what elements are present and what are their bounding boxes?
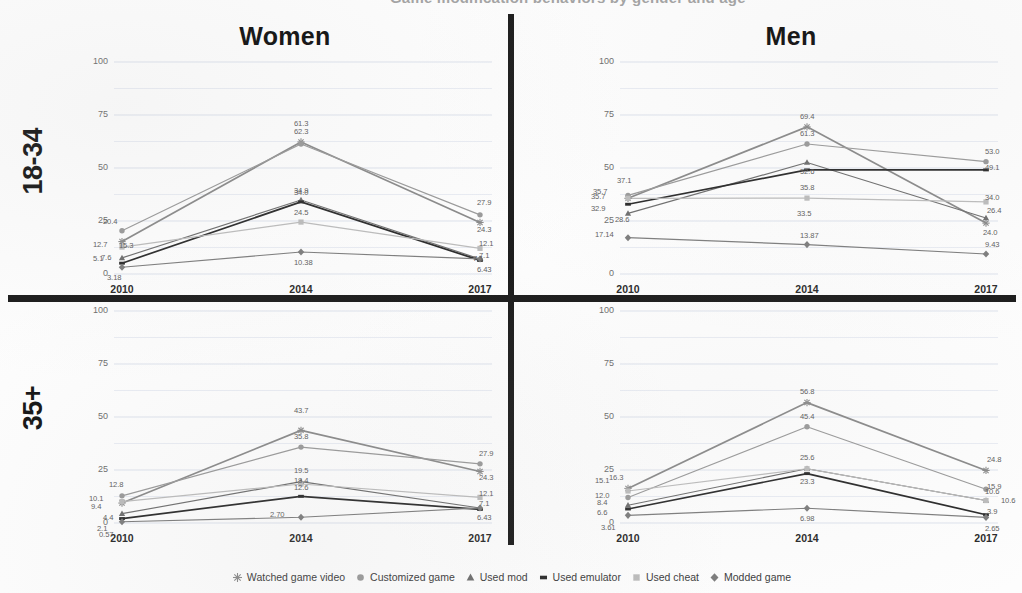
data-point-label: 5.1 — [93, 254, 103, 263]
data-point-label: 53.0 — [985, 147, 999, 156]
legend-item-label: Modded game — [724, 571, 791, 583]
y-axis-tick-label: 75 — [82, 358, 108, 368]
plot-area-men-35-plus — [566, 305, 1016, 545]
data-point-label: 13.87 — [800, 231, 819, 240]
x-axis-tick-label: 2017 — [455, 283, 505, 295]
data-point-label: 23.3 — [800, 477, 814, 486]
row-label-18-34: 18-34 — [18, 128, 49, 195]
data-point-label: 15.3 — [119, 241, 133, 250]
legend-item[interactable]: Watched game video — [231, 571, 345, 583]
x-axis-tick-label: 2010 — [97, 283, 147, 295]
plot-area-women-35-plus — [60, 305, 510, 545]
x-axis-tick-label: 2014 — [276, 283, 326, 295]
x-axis-tick-label: 2014 — [782, 532, 832, 544]
data-point-label: 28.6 — [615, 215, 629, 224]
top-banner: Game modification behaviors by gender an… — [390, 0, 910, 13]
plot-area-men-18-34 — [566, 22, 1016, 294]
y-axis-tick-label: 100 — [588, 305, 614, 315]
square-marker-icon — [630, 572, 643, 583]
data-point-label: 62.3 — [294, 127, 308, 136]
data-point-label: 2.70 — [270, 510, 284, 519]
data-point-label: 6.43 — [477, 513, 491, 522]
y-axis-tick-label: 100 — [82, 56, 108, 66]
data-point-label: 33.5 — [797, 209, 811, 218]
data-point-label: 2.65 — [985, 524, 999, 533]
data-point-label: 32.9 — [591, 204, 605, 213]
data-point-label: 24.8 — [987, 455, 1001, 464]
y-axis-tick-label: 50 — [588, 411, 614, 421]
data-point-label: 8.4 — [597, 498, 607, 507]
data-point-label: 27.9 — [479, 449, 493, 458]
chart-page: Game modification behaviors by gender an… — [0, 0, 1022, 593]
data-point-label: 24.0 — [983, 228, 997, 237]
legend-item[interactable]: Customized game — [354, 571, 455, 583]
data-point-label: 3.61 — [601, 523, 615, 532]
data-point-label: 7.1 — [479, 499, 489, 508]
data-point-label: 35.7 — [591, 192, 605, 201]
y-axis-tick-label: 0 — [588, 268, 614, 278]
panel-men-18-34: Men 100755025020102014201735.769.424.037… — [566, 22, 1016, 294]
x-axis-tick-label: 2010 — [603, 283, 653, 295]
data-point-label: 26.4 — [987, 206, 1001, 215]
data-point-label: 10.38 — [294, 258, 313, 267]
y-axis-tick-label: 75 — [588, 109, 614, 119]
x-axis-tick-label: 2014 — [782, 283, 832, 295]
data-point-label: 45.4 — [800, 412, 814, 421]
data-point-label: 6.98 — [800, 514, 814, 523]
x-axis-tick-label: 2017 — [455, 532, 505, 544]
data-point-label: 24.3 — [479, 473, 493, 482]
data-point-label: 6.6 — [597, 508, 607, 517]
legend-item-label: Watched game video — [247, 571, 345, 583]
data-point-label: 34.0 — [294, 188, 308, 197]
y-axis-tick-label: 100 — [588, 56, 614, 66]
top-banner-text: Game modification behaviors by gender an… — [390, 0, 910, 4]
vertical-divider — [508, 14, 514, 545]
panel-men-35-plus: 100755025020102014201716.356.824.812.045… — [566, 305, 1016, 545]
chart-legend: Watched game videoCustomized gameUsed mo… — [0, 571, 1022, 583]
data-point-label: 24.5 — [294, 208, 308, 217]
panel-women-18-34: Women 100755025020102014201715.362.324.3… — [60, 22, 510, 294]
plot-area-women-18-34 — [60, 22, 510, 294]
data-point-label: 3.9 — [987, 507, 997, 516]
data-point-label: 7.1 — [473, 254, 483, 263]
y-axis-tick-label: 0 — [82, 268, 108, 278]
y-axis-tick-label: 100 — [82, 305, 108, 315]
data-point-label: 27.9 — [477, 198, 491, 207]
data-point-label: 9.4 — [91, 502, 101, 511]
data-point-label: 56.8 — [800, 387, 814, 396]
data-point-label: 4.4 — [103, 513, 113, 522]
y-axis-tick-label: 50 — [588, 162, 614, 172]
legend-item-label: Customized game — [370, 571, 455, 583]
data-point-label: 34.0 — [985, 193, 999, 202]
y-axis-tick-label: 25 — [588, 215, 614, 225]
legend-item[interactable]: Used emulator — [537, 571, 621, 583]
data-point-label: 19.5 — [294, 466, 308, 475]
data-point-label: 9.43 — [985, 240, 999, 249]
data-point-label: 69.4 — [800, 112, 814, 121]
y-axis-tick-label: 50 — [82, 162, 108, 172]
data-point-label: 10.6 — [985, 487, 999, 496]
x-axis-tick-label: 2014 — [276, 532, 326, 544]
legend-item-label: Used mod — [480, 571, 528, 583]
data-point-label: 12.7 — [93, 240, 107, 249]
x-axis-tick-label: 2010 — [603, 532, 653, 544]
data-point-label: 16.3 — [609, 473, 623, 482]
data-point-label: 12.1 — [479, 239, 493, 248]
data-point-label: 49.1 — [985, 163, 999, 172]
data-point-label: 0.57 — [99, 530, 113, 539]
data-point-label: 35.8 — [800, 183, 814, 192]
line-marker-icon — [537, 572, 550, 583]
data-point-label: 17.14 — [595, 230, 614, 239]
data-point-label: 37.1 — [617, 176, 631, 185]
data-point-label: 18.4 — [294, 476, 308, 485]
data-point-label: 6.43 — [477, 265, 491, 274]
legend-item-label: Used emulator — [553, 571, 621, 583]
row-label-35-plus: 35+ — [18, 386, 49, 430]
y-axis-tick-label: 75 — [82, 109, 108, 119]
data-point-label: 20.4 — [103, 217, 117, 226]
legend-item[interactable]: Used cheat — [630, 571, 699, 583]
legend-item[interactable]: Modded game — [708, 571, 791, 583]
data-point-label: 52.6 — [800, 167, 814, 176]
legend-item[interactable]: Used mod — [464, 571, 528, 583]
diamond-marker-icon — [708, 572, 721, 583]
